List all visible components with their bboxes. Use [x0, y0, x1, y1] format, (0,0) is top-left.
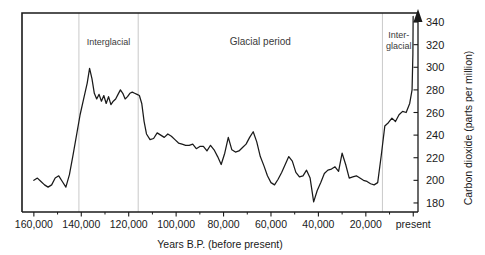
y-tick-label-7: 320: [426, 39, 444, 51]
carbon-dioxide-line-chart: 160,000140,000120,000100,00080,00060,000…: [0, 0, 485, 255]
x-axis-tick-labels: 160,000140,000120,000100,00080,00060,000…: [15, 218, 431, 230]
x-axis-title: Years B.P. (before present): [157, 238, 283, 250]
annotation-glacial-period: Glacial period: [230, 36, 291, 47]
x-tick-label-4: 80,000: [207, 218, 239, 230]
plot-background: [22, 13, 418, 212]
y-tick-label-6: 300: [426, 61, 444, 73]
y-axis-title: Carbon dioxide (parts per million): [462, 51, 474, 206]
y-tick-label-1: 200: [426, 174, 444, 186]
annotation-interglacial-right-line2: glacial: [386, 41, 412, 51]
y-tick-label-2: 220: [426, 152, 444, 164]
x-tick-label-5: 60,000: [255, 218, 287, 230]
y-tick-label-8: 340: [426, 16, 444, 28]
y-tick-label-5: 280: [426, 84, 444, 96]
x-tick-label-2: 120,000: [110, 218, 148, 230]
co2-chart-figure: 160,000140,000120,000100,00080,00060,000…: [0, 0, 485, 255]
x-tick-label-7: 20,000: [350, 218, 382, 230]
y-tick-label-0: 180: [426, 197, 444, 209]
annotation-interglacial-right-line1: Inter-: [388, 30, 409, 40]
annotation-interglacial-left: Interglacial: [87, 37, 131, 47]
x-tick-label-1: 140,000: [62, 218, 100, 230]
x-tick-label-6: 40,000: [302, 218, 334, 230]
x-tick-label-3: 100,000: [157, 218, 195, 230]
y-axis-tick-labels: 180200220240260280300320340: [426, 16, 444, 209]
x-tick-label-0: 160,000: [15, 218, 53, 230]
y-tick-label-4: 260: [426, 107, 444, 119]
y-tick-label-3: 240: [426, 129, 444, 141]
x-tick-label-8: present: [396, 218, 431, 230]
